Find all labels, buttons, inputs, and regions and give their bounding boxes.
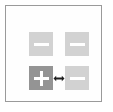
button-grid-panel bbox=[5, 5, 102, 102]
grid-button-top-left[interactable] bbox=[29, 32, 53, 56]
left-right-arrow-icon bbox=[53, 71, 65, 85]
grid-button-bottom-right[interactable] bbox=[65, 66, 89, 90]
minus-icon bbox=[70, 37, 85, 52]
button-grid bbox=[6, 6, 101, 101]
grid-button-top-right[interactable] bbox=[65, 32, 89, 56]
minus-icon bbox=[34, 37, 49, 52]
minus-icon bbox=[70, 71, 85, 86]
grid-button-bottom-left[interactable] bbox=[29, 66, 53, 90]
plus-icon bbox=[34, 71, 49, 86]
